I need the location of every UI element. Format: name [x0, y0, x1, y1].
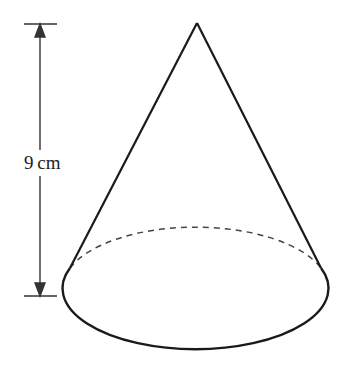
- arrow-down-icon: [35, 283, 45, 296]
- cone-left-side: [70, 23, 197, 268]
- cone-diagram: [0, 0, 345, 370]
- cone-right-side: [197, 23, 321, 268]
- arrow-up-icon: [35, 24, 45, 37]
- base-visible-edge: [63, 268, 329, 349]
- base-hidden-edge: [70, 227, 321, 268]
- height-label: 9 cm: [24, 150, 61, 176]
